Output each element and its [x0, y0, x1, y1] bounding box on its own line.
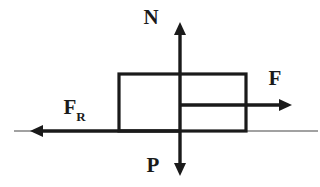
friction-force-subscript: R: [76, 109, 86, 124]
normal-force-label: N: [143, 5, 158, 29]
diagram-background: [0, 0, 320, 187]
friction-force-label: F: [64, 95, 77, 119]
weight-force-label: P: [147, 153, 160, 177]
applied-force-label: F: [269, 66, 282, 90]
diagram-canvas: N F F R P: [0, 0, 320, 187]
free-body-diagram: N F F R P: [0, 0, 320, 187]
